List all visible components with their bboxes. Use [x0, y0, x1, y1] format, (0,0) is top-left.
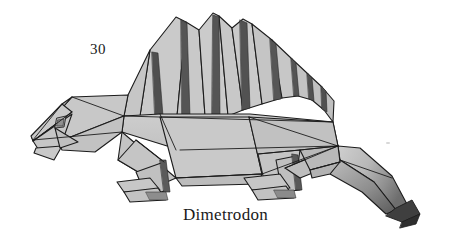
scan-speck-artifact — [386, 142, 390, 144]
figure-plate: 30 Dimetrodon — [0, 0, 451, 243]
front-foot-shadow — [146, 192, 168, 200]
sail-pleat-8 — [321, 86, 327, 112]
head-lower-jaw — [34, 146, 62, 160]
head-group — [31, 95, 128, 160]
sail-pleat-3 — [212, 15, 220, 116]
rear-foot-shadow — [274, 190, 296, 198]
figure-caption: Dimetrodon — [0, 206, 451, 223]
sail-group — [124, 13, 334, 122]
figure-number: 30 — [90, 42, 106, 57]
